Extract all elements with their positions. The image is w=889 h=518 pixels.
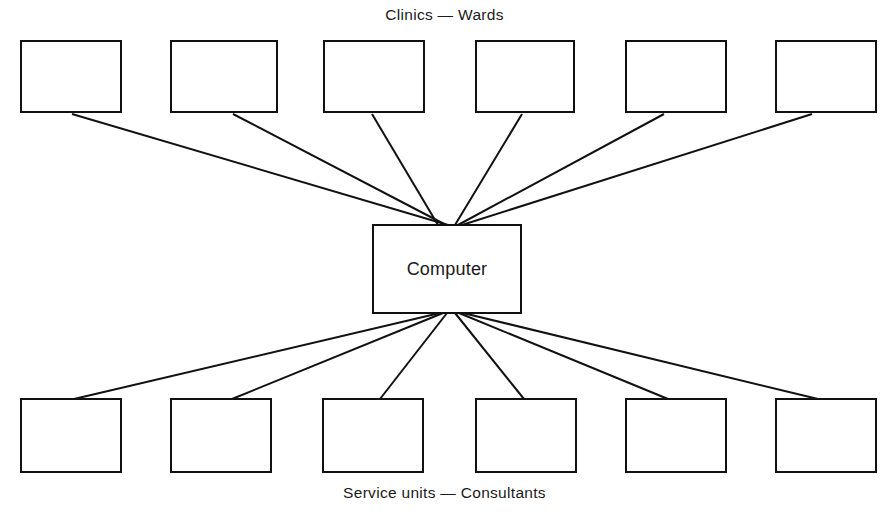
- connector-line-11: [459, 313, 668, 399]
- bottom-group-caption: Service units — Consultants: [0, 484, 889, 502]
- bottom-node-5[interactable]: [625, 398, 727, 473]
- connector-line-10: [455, 313, 524, 399]
- top-node-5[interactable]: [625, 40, 727, 113]
- top-node-4[interactable]: [475, 40, 575, 113]
- bottom-node-2[interactable]: [170, 398, 272, 473]
- top-node-6[interactable]: [775, 40, 877, 113]
- diagram-canvas: Clinics — Wards Computer Service units —…: [0, 0, 889, 518]
- connector-line-4: [455, 114, 522, 225]
- bottom-node-3[interactable]: [322, 398, 424, 473]
- connector-line-3: [372, 114, 438, 225]
- bottom-node-4[interactable]: [475, 398, 577, 473]
- connector-line-8: [232, 313, 443, 399]
- bottom-node-6[interactable]: [775, 398, 877, 473]
- connector-line-2: [233, 114, 446, 225]
- connector-line-6: [462, 114, 812, 225]
- connector-line-1: [72, 114, 448, 225]
- top-node-1[interactable]: [20, 40, 122, 113]
- connector-line-5: [458, 114, 664, 225]
- bottom-node-1[interactable]: [20, 398, 122, 473]
- computer-node-label: Computer: [407, 259, 488, 280]
- top-node-2[interactable]: [170, 40, 278, 113]
- connector-line-9: [380, 313, 447, 399]
- computer-node[interactable]: Computer: [372, 224, 522, 314]
- connector-line-7: [74, 313, 440, 399]
- top-group-caption: Clinics — Wards: [0, 6, 889, 24]
- top-node-3[interactable]: [323, 40, 425, 113]
- connector-line-12: [463, 313, 818, 399]
